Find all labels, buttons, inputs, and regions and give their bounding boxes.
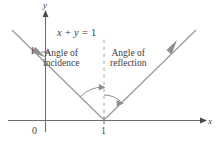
angle-of-reflection-line2: reflection	[110, 58, 146, 68]
x-axis-label: x	[208, 117, 212, 127]
reflection-diagram: x + y = 1 y x 1 0 1 Angle of incidence A…	[0, 0, 220, 151]
angle-of-reflection-line1: Angle of	[110, 48, 146, 58]
angle-of-incidence-line2: incidence	[43, 58, 79, 68]
angle-of-reflection-label: Angle of reflection	[110, 48, 146, 69]
origin-label: 0	[32, 126, 37, 137]
angle-of-incidence-line1: Angle of	[43, 48, 79, 58]
y-tick-label-1: 1	[30, 46, 35, 57]
x-axis-arrowhead	[200, 118, 207, 124]
y-axis-label: y	[43, 1, 47, 11]
angle-reflection-arc	[104, 95, 124, 106]
angle-of-incidence-label: Angle of incidence	[43, 48, 79, 69]
incident-ray	[12, 30, 104, 120]
x-axis	[8, 118, 207, 124]
equation-label: x + y = 1	[57, 27, 97, 38]
reflected-ray-arrowhead	[167, 40, 178, 55]
reflected-ray	[104, 30, 196, 120]
x-tick-label-1: 1	[101, 126, 106, 137]
angle-incidence-arc	[81, 84, 106, 97]
y-axis	[43, 10, 49, 132]
y-axis-arrowhead	[43, 10, 49, 17]
